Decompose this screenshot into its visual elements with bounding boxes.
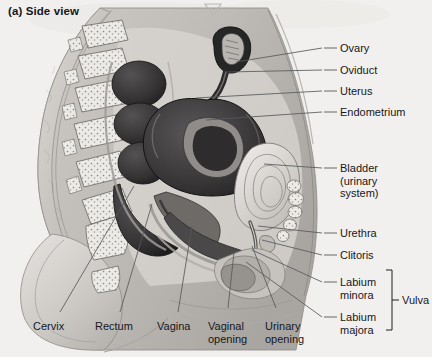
label-ovary: Ovary — [340, 42, 369, 55]
label-labium-minora: Labium minora — [340, 276, 376, 301]
label-urethra: Urethra — [340, 227, 377, 240]
anatomy-figure: (a) Side view Ovary Oviduct Uterus Endom… — [0, 0, 432, 357]
label-labium-majora: Labium majora — [340, 311, 376, 336]
label-vaginal-opening: Vaginal opening — [208, 320, 247, 345]
label-urinary-opening: Urinary opening — [265, 320, 304, 345]
label-cervix: Cervix — [33, 320, 64, 333]
label-vulva: Vulva — [402, 294, 429, 307]
label-vagina: Vagina — [157, 320, 190, 333]
label-oviduct: Oviduct — [340, 64, 377, 77]
label-rectum: Rectum — [95, 320, 133, 333]
label-bladder: Bladder (urinary system) — [340, 162, 379, 200]
label-uterus: Uterus — [340, 85, 372, 98]
figure-title: (a) Side view — [8, 5, 79, 17]
label-endometrium: Endometrium — [340, 106, 405, 119]
label-clitoris: Clitoris — [340, 249, 374, 262]
